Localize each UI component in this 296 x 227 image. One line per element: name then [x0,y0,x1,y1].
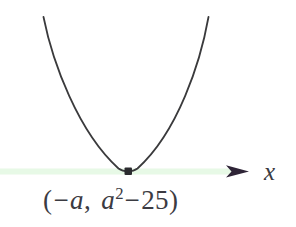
x-coordinate-variable: a [70,185,84,215]
coordinate-comma: , [84,185,94,215]
parabola-curve [44,17,209,171]
x-axis-label: x [264,159,275,184]
subtraction-sign: − [124,185,142,215]
exponent-two: 2 [115,184,123,203]
vertex-point-marker [125,168,133,176]
constant-25: 25 [141,185,169,215]
vertex-coordinate-label: (−a, a2−25) [43,186,178,214]
minus-sign: − [52,185,70,215]
parabola-figure: (−a, a2−25) x [0,0,296,227]
y-coordinate-variable: a [101,185,115,215]
close-paren: ) [169,185,178,215]
open-paren: ( [43,185,52,215]
